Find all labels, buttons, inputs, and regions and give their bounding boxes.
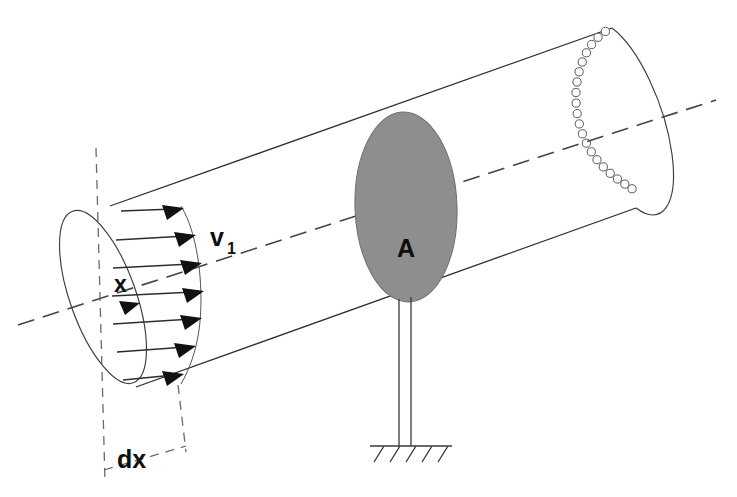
area-label: A: [397, 234, 415, 262]
dx-right-extension-line: [178, 385, 186, 452]
velocity-subscript-label: 1: [227, 240, 236, 257]
flow-arrow: [123, 371, 184, 386]
dx-left-extension-line: [96, 148, 105, 482]
dx-label: dx: [117, 445, 146, 473]
flow-arrow: [116, 232, 196, 247]
flow-arrow: [113, 315, 202, 330]
axis-direction-arrowhead: [119, 301, 140, 315]
velocity-label: v: [210, 223, 224, 251]
figure-canvas: v 1 x A dx: [0, 0, 737, 497]
obstruction-disc-group: [352, 110, 461, 303]
duct-flow-diagram: v 1 x A dx: [0, 0, 737, 497]
ground-hatching: [374, 446, 448, 462]
flow-arrow: [117, 343, 196, 358]
disc-support: [370, 297, 452, 462]
flow-arrow: [121, 205, 184, 220]
obstruction-disc: [352, 110, 461, 303]
duct-outlet-hidden-arc: [572, 27, 636, 193]
dx-dimension: [96, 148, 186, 482]
axis-label: x: [114, 271, 127, 297]
